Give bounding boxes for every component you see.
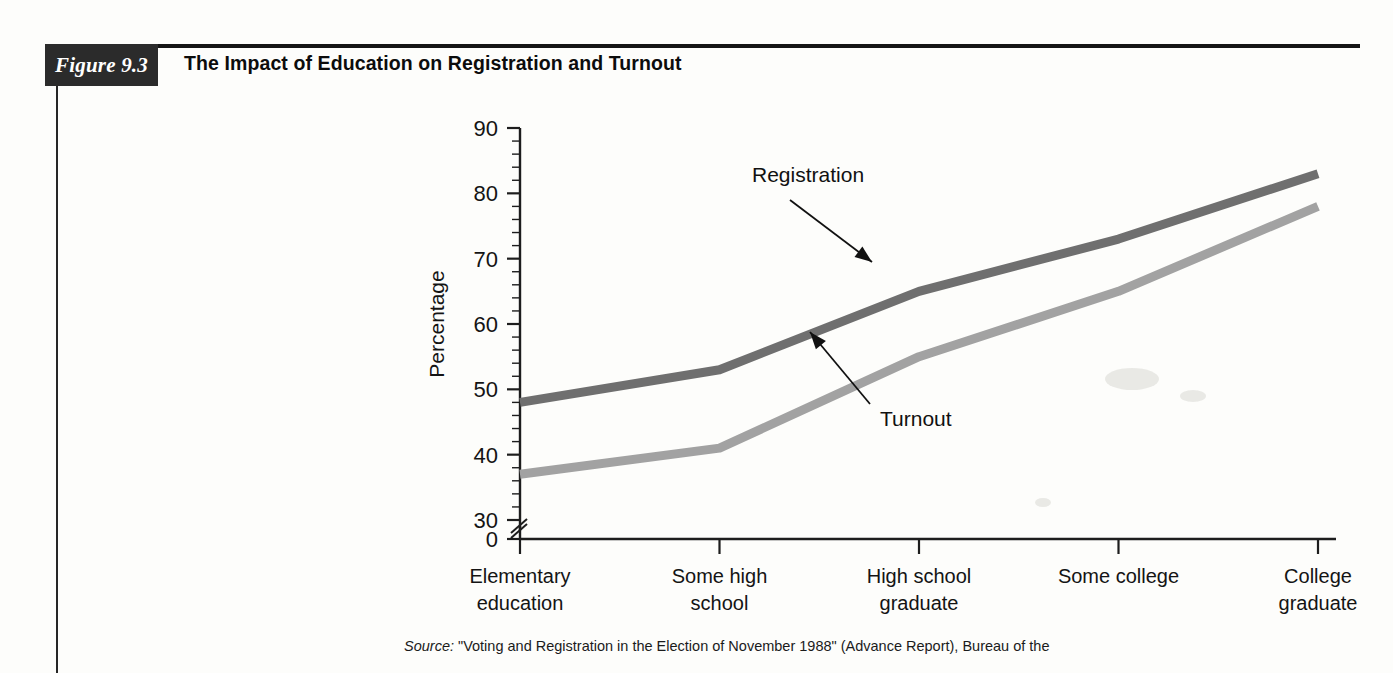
y-tick-label: 60 bbox=[474, 312, 498, 337]
chart-canvas: 304050607080900 ElementaryeducationSome … bbox=[400, 104, 1360, 624]
figure-title: The Impact of Education on Registration … bbox=[184, 52, 682, 75]
y-tick-label: 40 bbox=[474, 443, 498, 468]
x-tick-label: Some college bbox=[1058, 565, 1179, 587]
y-tick-label: 50 bbox=[474, 377, 498, 402]
figure-header: Figure 9.3 The Impact of Education on Re… bbox=[45, 44, 1360, 86]
x-axis: ElementaryeducationSome highschoolHigh s… bbox=[469, 539, 1357, 614]
y-tick-label: 80 bbox=[474, 181, 498, 206]
series-line-registration bbox=[520, 174, 1318, 403]
annotation-label-registration: Registration bbox=[752, 163, 864, 186]
y-tick-label: 70 bbox=[474, 247, 498, 272]
y-zero-label: 0 bbox=[486, 527, 498, 552]
figure-left-rule bbox=[56, 86, 58, 673]
x-tick-label: education bbox=[477, 592, 564, 614]
x-tick-label: Elementary bbox=[469, 565, 570, 587]
source-text: "Voting and Registration in the Election… bbox=[454, 638, 1049, 654]
line-chart: 304050607080900 ElementaryeducationSome … bbox=[400, 104, 1360, 624]
x-tick-label: school bbox=[691, 592, 749, 614]
source-note: Source: "Voting and Registration in the … bbox=[404, 637, 1354, 657]
annotation-arrowhead-registration bbox=[855, 247, 872, 262]
figure-number-label: Figure 9.3 bbox=[55, 53, 148, 78]
figure-number-block: Figure 9.3 bbox=[45, 44, 158, 86]
source-label: Source: bbox=[404, 638, 454, 654]
y-tick-label: 90 bbox=[474, 116, 498, 141]
x-tick-label: Some high bbox=[672, 565, 768, 587]
x-tick-label: College bbox=[1284, 565, 1352, 587]
x-tick-label: graduate bbox=[1279, 592, 1358, 614]
figure-header-rule bbox=[158, 44, 1360, 48]
y-axis: 304050607080900 bbox=[474, 116, 527, 552]
x-tick-label: High school bbox=[867, 565, 972, 587]
annotation-label-turnout: Turnout bbox=[880, 407, 952, 430]
x-tick-label: graduate bbox=[880, 592, 959, 614]
series-line-turnout bbox=[520, 206, 1318, 474]
y-axis-title: Percentage bbox=[425, 270, 448, 377]
